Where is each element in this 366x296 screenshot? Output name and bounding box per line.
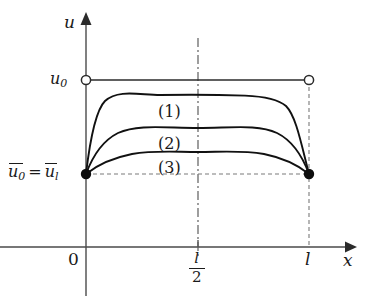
ubar-right-group: ul (45, 164, 59, 182)
ubar-right-base: u (45, 162, 55, 181)
x-tick-label-origin: 0 (68, 251, 79, 268)
curve-3-label: (3) (158, 160, 181, 176)
filled-dot-right (304, 169, 314, 179)
x-tick-label-l: l (305, 251, 310, 268)
ubar-left-base: u (8, 162, 18, 181)
y-axis-label: u (64, 14, 75, 31)
y-axis (81, 12, 92, 296)
filled-dot-left (81, 169, 91, 179)
x-axis (0, 242, 357, 253)
y-tick-label-u0: u0 (50, 71, 67, 89)
y-tick-u0-subscript: 0 (60, 77, 67, 90)
y-tick-label-ubar: u0=ul (8, 164, 59, 182)
equals-sign: = (25, 162, 44, 181)
open-circle-left (81, 75, 90, 84)
x-axis-label: x (343, 252, 353, 269)
x-tick-label-half-l: l 2 (189, 251, 205, 286)
curve-2-label: (2) (158, 136, 181, 152)
open-circle-right (304, 75, 313, 84)
y-axis-arrow-icon (81, 12, 92, 25)
curve-1-label: (1) (158, 104, 181, 120)
plot-canvas (0, 0, 366, 296)
ubar-left-subscript: 0 (18, 170, 25, 183)
curve-2 (86, 127, 309, 174)
y-tick-u0-base: u (50, 69, 60, 88)
half-l-denominator: 2 (189, 269, 205, 286)
half-l-numerator: l (189, 251, 205, 268)
ubar-right-subscript: l (55, 170, 59, 183)
figure-container: u u0 u0=ul (1) (2) (3) 0 l 2 l x (0, 0, 366, 296)
ubar-left-group: u0 (8, 164, 25, 182)
